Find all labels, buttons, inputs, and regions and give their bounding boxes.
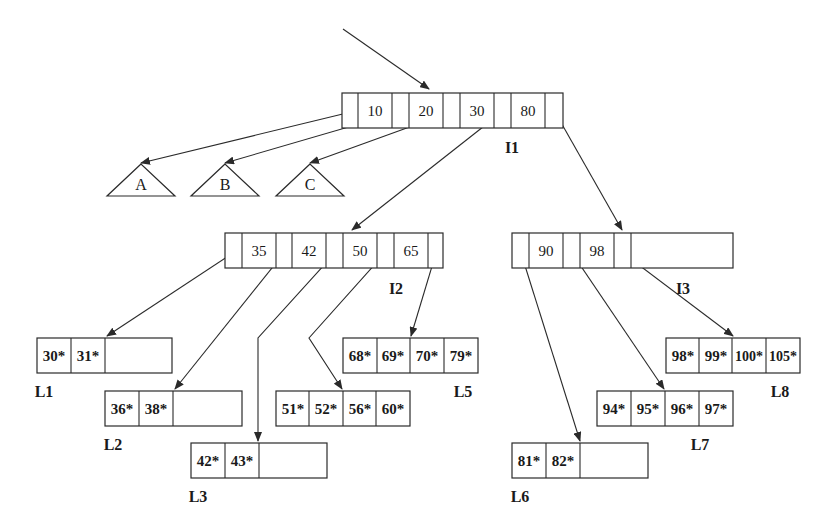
i1-key-3: 30 (470, 103, 485, 119)
l2-label: L2 (104, 436, 123, 453)
edge-i1-to-i3 (555, 112, 622, 230)
leaf-l6: 81* 82* L6 (511, 443, 648, 505)
edge-i2-to-l1 (107, 253, 233, 336)
internal-node-i2: 35 42 50 65 I2 (225, 233, 443, 297)
l8-entry-1: 98* (672, 348, 695, 364)
edge-i3-to-l6 (521, 253, 580, 441)
l1-entry-2: 31* (77, 348, 100, 364)
l7-entry-3: 96* (671, 401, 694, 417)
l6-label: L6 (511, 488, 530, 505)
i1-key-4: 80 (521, 103, 536, 119)
l8-entry-3: 100* (735, 349, 763, 364)
edge-i1-to-i2 (352, 112, 502, 230)
l5-entry-3: 70* (416, 348, 439, 364)
i1-key-1: 10 (368, 103, 383, 119)
l5-label: L5 (454, 383, 473, 400)
l7-entry-1: 94* (603, 401, 626, 417)
l3-entry-1: 42* (197, 453, 220, 469)
l8-entry-4: 105* (769, 349, 797, 364)
l6-entry-1: 81* (518, 453, 541, 469)
subtree-b: B (191, 164, 259, 196)
l1-entry-1: 30* (43, 348, 66, 364)
i2-key-1: 35 (252, 243, 267, 259)
subtree-b-label: B (220, 176, 231, 193)
root-arrow (343, 29, 429, 89)
i2-key-4: 65 (404, 243, 419, 259)
i3-key-2: 98 (590, 243, 605, 259)
i2-key-2: 42 (302, 243, 317, 259)
l2-entry-2: 38* (145, 401, 168, 417)
internal-node-i1: 10 20 30 80 I1 (342, 93, 563, 156)
l4-entry-3: 56* (349, 401, 372, 417)
l4-entry-4: 60* (382, 401, 405, 417)
l1-label: L1 (35, 383, 54, 400)
i3-label: I3 (676, 280, 690, 297)
i3-key-1: 90 (539, 243, 554, 259)
leaf-l3: 42* 43* L3 (189, 443, 327, 505)
l5-entry-2: 69* (382, 348, 405, 364)
l3-label: L3 (189, 488, 208, 505)
i2-label: I2 (389, 280, 403, 297)
b-plus-tree-diagram: 10 20 30 80 I1 A B C 35 42 50 65 I2 (0, 0, 833, 532)
subtree-c-label: C (305, 176, 316, 193)
i2-key-3: 50 (353, 243, 368, 259)
edge-i1-to-a (141, 112, 351, 163)
l4-entry-1: 51* (282, 401, 305, 417)
l7-entry-2: 95* (637, 401, 660, 417)
l8-entry-2: 99* (705, 348, 728, 364)
l2-entry-1: 36* (111, 401, 134, 417)
l7-label: L7 (691, 436, 710, 453)
subtree-a-label: A (135, 176, 147, 193)
l8-label: L8 (771, 383, 790, 400)
l6-entry-2: 82* (552, 453, 575, 469)
i1-label: I1 (505, 139, 519, 156)
i1-key-2: 20 (419, 103, 434, 119)
internal-node-i3: 90 98 I3 (512, 233, 733, 297)
edge-i2-to-l2 (175, 253, 284, 389)
l4-entry-2: 52* (315, 401, 338, 417)
l5-entry-1: 68* (349, 348, 372, 364)
l7-entry-4: 97* (705, 401, 728, 417)
subtree-c: C (276, 164, 344, 196)
l5-entry-4: 79* (450, 348, 473, 364)
subtree-a: A (107, 164, 175, 196)
l3-entry-2: 43* (231, 453, 254, 469)
